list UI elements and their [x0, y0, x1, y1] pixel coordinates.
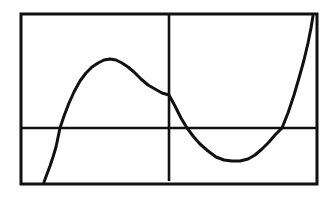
graph-screenshot — [0, 0, 335, 201]
function-graph — [0, 0, 335, 201]
